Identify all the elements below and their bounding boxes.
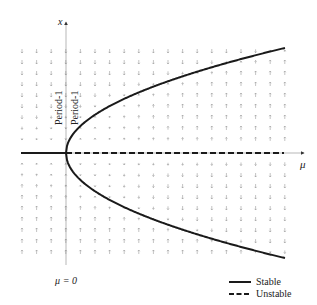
legend: Stable Unstable — [229, 276, 292, 299]
branch-label-right: Period-1 — [69, 91, 80, 125]
legend-unstable-label: Unstable — [256, 288, 292, 299]
x-axis-label: μ — [299, 158, 306, 170]
upper-stable-branch — [66, 48, 285, 153]
legend-stable-label: Stable — [256, 276, 282, 287]
branch-label-left: Period-1 — [53, 91, 64, 125]
y-axis-label: x — [57, 16, 63, 27]
vector-field — [21, 49, 286, 254]
lower-stable-branch — [66, 153, 285, 258]
bifurcation-point-label: μ = 0 — [54, 275, 77, 286]
bifurcation-diagram: x μ Period-1 Period-1 μ = 0 Stable Unsta… — [0, 0, 317, 305]
